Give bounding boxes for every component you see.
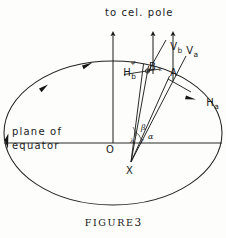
figure-caption: FIGURE3 [0, 216, 226, 228]
vector-Va-subscript: a [194, 50, 199, 59]
vector-Ha-subscript: a [214, 102, 219, 111]
angle-beta-label: β [141, 124, 146, 132]
vector-Vb-subscript: b [178, 46, 183, 55]
angle-phi-b-label: φ [131, 59, 136, 65]
figure-caption-number: 3 [134, 216, 141, 228]
angle-small-left-label: λ [130, 138, 134, 144]
vector-Vb-label: Vb [155, 32, 182, 65]
plane-of-label: plane of [12, 127, 62, 137]
to-celestial-pole-label: to cel. pole [105, 8, 174, 18]
point-A-label: A [170, 68, 177, 78]
angle-small-right-label: γ [140, 137, 144, 143]
vector-Vb-base: V [170, 41, 177, 52]
angle-epsilon-b-label: ε [159, 66, 163, 72]
point-O-label: O [106, 145, 114, 155]
orbit-direction-arrow-upperleft [39, 84, 48, 92]
vector-Ha-label: Ha [191, 88, 219, 121]
vector-Va-base: V [186, 45, 193, 56]
point-X-label: X [126, 166, 133, 176]
equator-label: equator [12, 141, 60, 151]
angle-alpha-label: α [148, 133, 153, 141]
figure-caption-word: FIGURE [85, 217, 135, 228]
figure-3-container: to cel. pole plane of equator O X A B Va… [0, 0, 226, 238]
vector-Hb-subscript: b [131, 72, 136, 81]
